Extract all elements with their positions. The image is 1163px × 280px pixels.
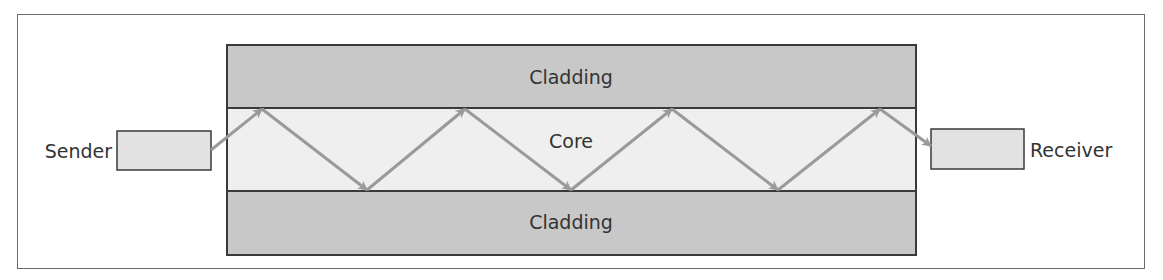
cladding-top-label: Cladding [529,66,613,88]
sender-box [117,131,211,170]
core-label: Core [549,130,593,152]
sender-label: Sender [45,140,113,162]
receiver-label: Receiver [1030,139,1112,161]
fiber-diagram: Cladding Core Cladding Sender Receiver [0,0,1163,280]
receiver-box [931,129,1024,169]
cladding-bottom-label: Cladding [529,211,613,233]
